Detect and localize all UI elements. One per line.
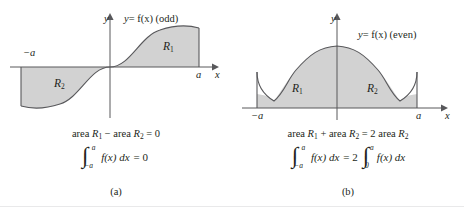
tick-label-neg-a-even: −a [251, 111, 263, 122]
caption-even: area R1 + area R2 = 2 area R2 ∫ a −a f(x… [232, 128, 464, 169]
panel-odd-function: y x −a a y= f(x) (odd) R1 R2 area R1 − a… [0, 0, 232, 207]
integral-upper-limit-odd: a [89, 144, 98, 152]
equation-relation-odd: = 0 [134, 152, 148, 163]
sub-caption-a: (a) [0, 186, 232, 197]
curve-label-odd: y= f(x) (odd) [124, 14, 178, 25]
figure-container: y x −a a y= f(x) (odd) R1 R2 area R1 − a… [0, 0, 464, 207]
integral-even-lhs: ∫ a −a [292, 147, 306, 169]
region-r1-shape-even [257, 46, 337, 108]
panel-even-function: y x −a a y= f(x) (even) R1 R2 area R1 + … [232, 0, 464, 207]
region-label-r2-odd: R2 [54, 78, 65, 90]
curve-label-even: y= f(x) (even) [358, 30, 416, 41]
area-statement-even: area R1 + area R2 = 2 area R2 [232, 128, 464, 140]
region-label-r1-even: R1 [292, 83, 303, 95]
bottom-edge-divider [0, 206, 464, 207]
x-axis-label-odd: x [215, 70, 220, 81]
integral-lower-limit-odd: −a [84, 162, 93, 170]
region-label-r2-even: R2 [367, 83, 378, 95]
odd-function-graph [0, 0, 232, 125]
tick-label-a-even: a [416, 111, 421, 122]
area-statement-odd: area R1 − area R2 = 0 [0, 128, 232, 140]
integral2-lower-limit-even: 0 [365, 162, 369, 170]
integral-odd: ∫ a −a [82, 147, 96, 169]
integral-even-rhs: ∫ a 0 [363, 147, 372, 169]
y-axis-label-even: y [331, 14, 336, 25]
y-axis-label-odd: y [104, 14, 109, 25]
integrand-odd: f(x) dx [101, 152, 129, 163]
even-function-graph [232, 0, 464, 125]
equation-odd: ∫ a −a f(x) dx = 0 [0, 147, 232, 169]
equation-even: ∫ a −a f(x) dx = 2 ∫ a 0 f(x) dx [232, 147, 464, 169]
integral-lower-limit-even: −a [294, 162, 303, 170]
x-axis-label-even: x [445, 111, 450, 122]
integrand-even: f(x) dx [311, 152, 339, 163]
tick-label-neg-a-odd: −a [23, 48, 35, 59]
integrand2-even: f(x) dx [377, 152, 405, 163]
equation-relation-even: = 2 [343, 152, 357, 163]
region-label-r1-odd: R1 [163, 41, 174, 53]
region-r2-shape-even [337, 46, 417, 108]
integral2-upper-limit-even: a [370, 144, 374, 152]
sub-caption-b: (b) [232, 186, 464, 197]
integral-upper-limit-even: a [299, 144, 308, 152]
caption-odd: area R1 − area R2 = 0 ∫ a −a f(x) dx = 0 [0, 128, 232, 169]
plot-odd [0, 0, 232, 125]
tick-label-a-odd: a [196, 70, 201, 81]
plot-even [232, 0, 464, 125]
